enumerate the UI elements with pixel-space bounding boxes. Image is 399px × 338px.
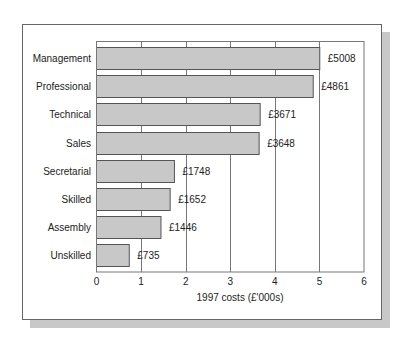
x-tick-label: 6: [354, 276, 374, 288]
value-label: £1652: [178, 194, 206, 206]
value-label: £735: [137, 250, 159, 262]
x-axis-title: 1997 costs (£'000s): [180, 292, 300, 304]
bar-secretarial: [97, 161, 175, 183]
bar-unskilled: [97, 245, 130, 267]
x-tick-label: 5: [309, 276, 329, 288]
value-label: £3671: [268, 109, 296, 121]
value-label: £4861: [321, 81, 349, 93]
category-label: Assembly: [48, 222, 91, 234]
category-label: Professional: [36, 81, 91, 93]
bar-technical: [97, 104, 261, 126]
x-tick-label: 2: [176, 276, 196, 288]
category-label: Management: [33, 53, 91, 65]
bar-sales: [97, 133, 260, 155]
value-label: £1748: [182, 166, 210, 178]
x-tick-label: 4: [265, 276, 285, 288]
category-label: Skilled: [62, 194, 91, 206]
bar-professional: [97, 76, 314, 98]
category-label: Technical: [49, 109, 91, 121]
value-label: £5008: [328, 53, 356, 65]
x-tick-label: 3: [220, 276, 240, 288]
category-label: Sales: [66, 138, 91, 150]
category-label: Unskilled: [50, 250, 91, 262]
bars: [97, 48, 320, 267]
value-label: £3648: [267, 138, 295, 150]
x-tick-label: 0: [87, 276, 107, 288]
bar-assembly: [97, 217, 161, 239]
x-tick-label: 1: [131, 276, 151, 288]
bar-skilled: [97, 189, 171, 211]
category-label: Secretarial: [43, 166, 91, 178]
bar-management: [97, 48, 320, 70]
value-label: £1446: [169, 222, 197, 234]
